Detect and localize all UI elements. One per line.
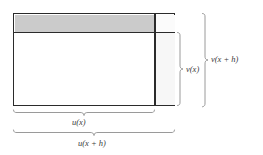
region-top-right-corner-box — [156, 15, 175, 33]
region-right-vertical-strip — [156, 33, 175, 105]
brace-v-of-x — [178, 33, 184, 106]
region-main-area-u-times-v — [15, 33, 156, 105]
product-rule-area-diagram: v(x) v(x + h) u(x) u(x + h) — [0, 0, 263, 155]
brace-v-of-x-plus-h — [203, 14, 209, 107]
label-v-of-x-plus-h: v(x + h) — [211, 55, 238, 64]
brace-u-of-x — [14, 110, 155, 116]
label-u-of-x-plus-h: u(x + h) — [78, 139, 106, 148]
vertical-divider-line — [154, 13, 156, 106]
label-v-of-x: v(x) — [186, 65, 199, 74]
horizontal-divider-line — [13, 32, 175, 34]
region-shaded-top-band — [15, 15, 156, 33]
brace-u-of-x-plus-h — [14, 130, 175, 136]
label-u-of-x: u(x) — [72, 118, 86, 127]
